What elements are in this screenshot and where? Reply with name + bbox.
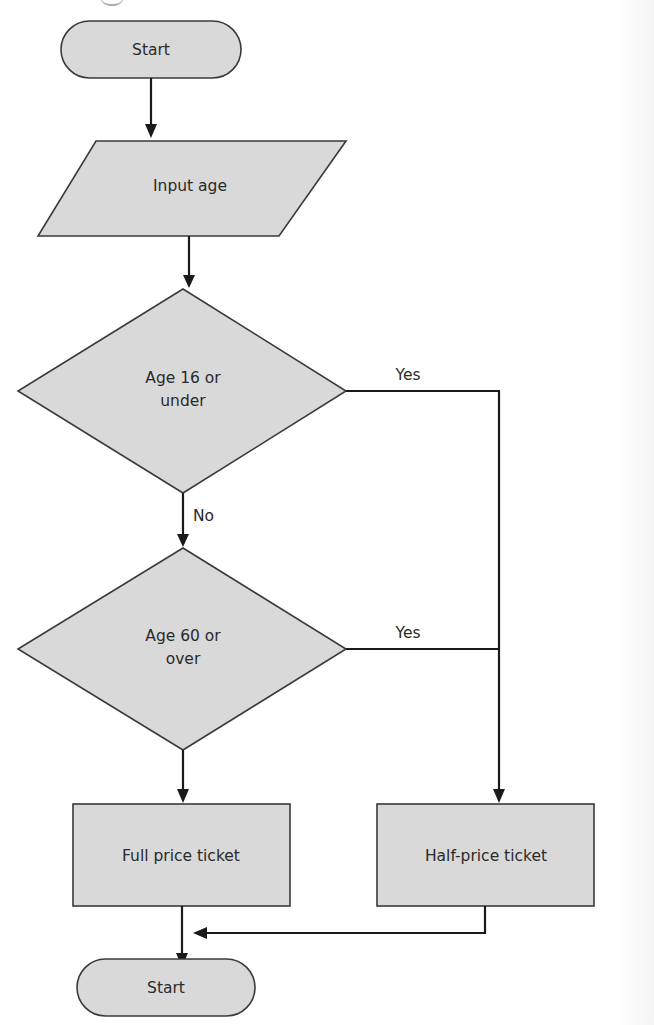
edge-decision2-to-full <box>177 750 189 803</box>
edge-decision2-yes: Yes <box>346 624 499 649</box>
decision1-label-line2: under <box>160 392 206 410</box>
edge-decision1-no: No <box>177 493 214 547</box>
input-node-label: Input age <box>153 177 227 195</box>
edge-half-to-end <box>193 906 485 939</box>
edge-input-to-decision1 <box>183 236 195 288</box>
half-price-label: Half-price ticket <box>425 847 547 865</box>
edge-decision1-yes: Yes <box>346 366 505 803</box>
full-price-node: Full price ticket <box>73 804 290 906</box>
start-node-label: Start <box>132 41 170 59</box>
decision-age-60-or-over: Age 60 or over <box>18 548 346 750</box>
start-node: Start <box>61 21 241 78</box>
end-node-label: Start <box>147 979 185 997</box>
decision2-label-line1: Age 60 or <box>145 627 221 645</box>
half-price-node: Half-price ticket <box>377 804 594 906</box>
decision-age-16-or-under: Age 16 or under <box>18 289 346 493</box>
decision1-no-label: No <box>193 507 214 525</box>
edge-start-to-input <box>145 78 157 138</box>
decision2-yes-label: Yes <box>394 624 420 642</box>
input-node: Input age <box>38 141 346 236</box>
decision2-label-line2: over <box>166 650 201 668</box>
full-price-label: Full price ticket <box>122 847 240 865</box>
flowchart: Start Input age Age 16 or under Yes No A… <box>0 0 654 1025</box>
edge-full-to-end <box>176 906 188 967</box>
end-node: Start <box>77 959 255 1016</box>
decision1-label-line1: Age 16 or <box>145 369 221 387</box>
decision1-yes-label: Yes <box>394 366 420 384</box>
